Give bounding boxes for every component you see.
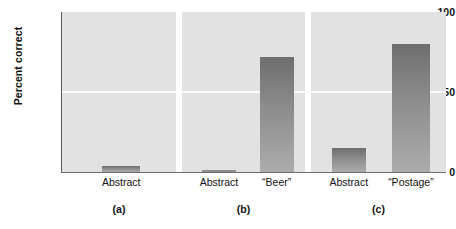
panel-caption-a: (a) — [74, 203, 164, 215]
x-axis-label-c-postage: “Postage” — [366, 176, 456, 188]
y-axis-title: Percent correct — [12, 0, 24, 136]
bar-c-abstract — [332, 148, 366, 172]
panel-c — [311, 12, 446, 172]
panel-b — [182, 12, 305, 172]
x-axis-baseline — [61, 172, 446, 173]
bar-c-postage — [392, 44, 430, 172]
x-axis-label-a-abstract: Abstract — [76, 176, 166, 188]
bar-b-beer — [260, 57, 294, 172]
panel-caption-b: (b) — [199, 203, 289, 215]
panel-a — [62, 12, 176, 172]
panel-caption-c: (c) — [334, 203, 424, 215]
gridline-50-panel-a — [62, 91, 176, 93]
plot-area — [62, 12, 446, 172]
